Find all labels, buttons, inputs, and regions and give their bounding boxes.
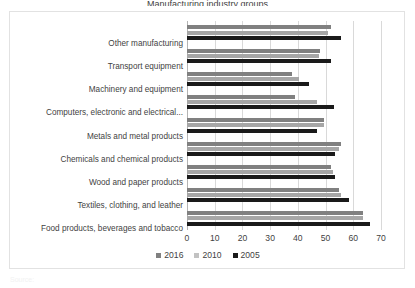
value-axis-tick-labels: 010203040506070 (187, 233, 381, 247)
tick-label: 50 (321, 233, 331, 243)
category-label: Metals and metal products (87, 132, 183, 142)
chart-screenshot: Manufacturing industry groups Other manu… (0, 0, 415, 288)
bar (187, 129, 317, 133)
category-axis-labels: Other manufacturingTransport equipmentMa… (10, 32, 186, 241)
category-label: Other manufacturing (108, 39, 183, 49)
bar (187, 188, 339, 192)
legend-label: 2010 (202, 250, 221, 260)
bar (187, 77, 299, 81)
bar (187, 31, 328, 35)
bar-group (187, 160, 381, 183)
tick-label: 60 (349, 233, 359, 243)
bar (187, 82, 309, 86)
bar (187, 152, 335, 156)
tick-label: 10 (210, 233, 220, 243)
bar (187, 175, 335, 179)
legend-item[interactable]: 2016 (156, 250, 183, 260)
plot-area (187, 21, 381, 230)
legend-item[interactable]: 2010 (194, 250, 221, 260)
clipped-chart-title: Manufacturing industry groups (0, 0, 415, 6)
tick-label: 30 (265, 233, 275, 243)
bar-rows (187, 21, 381, 230)
chart-frame: Other manufacturingTransport equipmentMa… (9, 11, 405, 269)
bar-group (187, 67, 381, 90)
category-label: Wood and paper products (89, 178, 183, 188)
chart-legend: 201620102005 (10, 250, 406, 260)
bar (187, 198, 349, 202)
legend-label: 2016 (164, 250, 183, 260)
legend-label: 2005 (241, 250, 260, 260)
category-label: Transport equipment (108, 62, 183, 72)
category-label: Food products, beverages and tobacco (41, 224, 183, 234)
bar (187, 193, 341, 197)
bar-group (187, 207, 381, 230)
legend-item[interactable]: 2005 (233, 250, 260, 260)
bar (187, 25, 331, 29)
bar-group (187, 44, 381, 67)
bar (187, 123, 324, 127)
bar-group (187, 184, 381, 207)
bar-group (187, 137, 381, 160)
bar (187, 59, 331, 63)
bar (187, 222, 370, 226)
category-label: Computers, electronic and electrical... (46, 108, 183, 118)
bar (187, 100, 317, 104)
bar-group (187, 114, 381, 137)
bar (187, 118, 324, 122)
bar (187, 170, 333, 174)
bar (187, 147, 339, 151)
bar (187, 54, 319, 58)
tick-label: 0 (185, 233, 190, 243)
clipped-chart-title-text: Manufacturing industry groups (147, 0, 268, 6)
legend-swatch-icon (156, 253, 161, 258)
bar-group (187, 21, 381, 44)
source-footnote: Source: (10, 276, 310, 286)
bar (187, 72, 292, 76)
bar (187, 36, 341, 40)
category-label: Textiles, clothing, and leather (77, 201, 183, 211)
bar (187, 142, 341, 146)
tick-label: 70 (376, 233, 386, 243)
tick-label: 40 (293, 233, 303, 243)
bar-group (187, 91, 381, 114)
gridline (381, 21, 382, 230)
bar (187, 95, 295, 99)
legend-swatch-icon (194, 253, 199, 258)
tick-label: 20 (238, 233, 248, 243)
category-label: Machinery and equipment (89, 85, 183, 95)
bar (187, 165, 331, 169)
bar (187, 105, 334, 109)
category-label: Chemicals and chemical products (61, 155, 183, 165)
bar (187, 49, 320, 53)
bar (187, 216, 363, 220)
bar (187, 211, 363, 215)
legend-swatch-icon (233, 253, 238, 258)
